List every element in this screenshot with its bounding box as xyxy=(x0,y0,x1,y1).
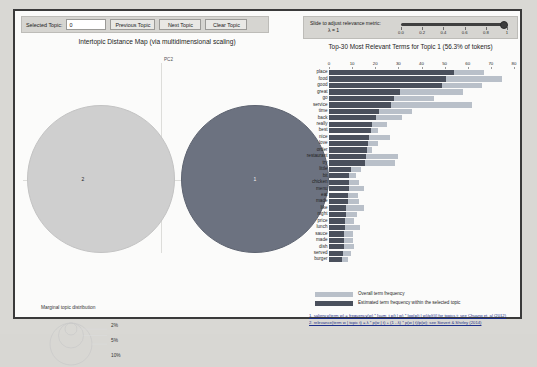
bar-topic-frequency xyxy=(329,147,367,152)
slider-tick-label: 1 xyxy=(506,30,508,35)
term-label[interactable]: place xyxy=(317,69,328,74)
term-label[interactable]: little xyxy=(319,166,327,171)
bar-row[interactable]: best xyxy=(329,128,514,133)
bar-row[interactable]: back xyxy=(329,115,514,120)
bar-topic-frequency xyxy=(329,205,346,210)
marginal-legend-circles xyxy=(35,310,155,366)
intertopic-distance-map[interactable]: PC2 PC1 2 1 Marginal topic distribution … xyxy=(21,47,293,282)
bar-row[interactable]: time xyxy=(329,109,514,114)
bar-topic-frequency xyxy=(329,70,454,75)
previous-topic-button[interactable]: Previous Topic xyxy=(110,19,155,30)
term-label[interactable]: dish xyxy=(319,244,327,249)
term-label[interactable]: good xyxy=(317,82,327,87)
bar-row[interactable]: burger xyxy=(329,257,514,262)
term-label[interactable]: love xyxy=(319,140,327,145)
bar-row[interactable]: restaurant xyxy=(329,154,514,159)
bar-row[interactable]: try xyxy=(329,160,514,165)
bar-row[interactable]: go xyxy=(329,96,514,101)
term-label[interactable]: best xyxy=(319,127,328,132)
footnote-relevance[interactable]: 2. relevance(term w | topic t) = λ * p(w… xyxy=(309,319,521,326)
bar-row[interactable]: dish xyxy=(329,244,514,249)
bar-row[interactable]: really xyxy=(329,122,514,127)
term-label[interactable]: eat xyxy=(321,192,327,197)
selected-topic-input[interactable] xyxy=(66,19,106,30)
pc2-axis-label: PC2 xyxy=(164,57,173,62)
bar-topic-frequency xyxy=(329,109,379,114)
legend-row-overall: Overall term frequency xyxy=(315,291,515,299)
relevance-slider-bar: Slide to adjust relevance metric: λ = 1 … xyxy=(303,16,518,39)
next-topic-button[interactable]: Next Topic xyxy=(159,19,201,30)
term-label[interactable]: bit xyxy=(323,173,328,178)
term-label[interactable]: price xyxy=(318,218,328,223)
clear-topic-button[interactable]: Clear Topic xyxy=(205,19,247,30)
relevance-slider[interactable]: 0.00.20.40.60.81 xyxy=(401,21,511,37)
x-axis-tick xyxy=(352,67,353,69)
bar-topic-frequency xyxy=(329,115,376,120)
bar-row[interactable]: service xyxy=(329,102,514,107)
slider-tick-label: 0.8 xyxy=(483,30,489,35)
x-axis-tick xyxy=(468,67,469,69)
x-axis-tick xyxy=(398,67,399,69)
term-label[interactable]: back xyxy=(318,115,328,120)
term-label[interactable]: made xyxy=(316,237,328,242)
bar-row[interactable]: little xyxy=(329,167,514,172)
slider-track[interactable] xyxy=(401,23,507,26)
term-label[interactable]: menu xyxy=(316,186,328,191)
bar-row[interactable]: good xyxy=(329,83,514,88)
bar-row[interactable]: order xyxy=(329,147,514,152)
term-label[interactable]: try xyxy=(322,160,327,165)
bar-row[interactable]: sauce xyxy=(329,231,514,236)
bar-row[interactable]: price xyxy=(329,218,514,223)
term-label[interactable]: order xyxy=(317,147,328,152)
marginal-legend-size-10: 10% xyxy=(111,353,121,358)
bar-row[interactable]: bit xyxy=(329,173,514,178)
bar-topic-frequency xyxy=(329,89,400,94)
bar-row[interactable]: love xyxy=(329,141,514,146)
term-label[interactable]: food xyxy=(319,76,328,81)
term-label[interactable]: great xyxy=(317,89,327,94)
x-axis-tick xyxy=(422,67,423,69)
bar-row[interactable]: chicken xyxy=(329,180,514,185)
bar-row[interactable]: made xyxy=(329,199,514,204)
top-terms-title: Top-30 Most Relevant Terms for Topic 1 (… xyxy=(303,43,518,50)
bar-topic-frequency xyxy=(329,76,446,81)
bar-row[interactable]: night xyxy=(329,212,514,217)
x-axis-tick-label: 80 xyxy=(512,61,517,66)
bar-topic-frequency xyxy=(329,231,344,236)
term-label[interactable]: served xyxy=(314,250,328,255)
bar-row[interactable]: made xyxy=(329,238,514,243)
term-label[interactable]: go xyxy=(322,95,327,100)
term-label[interactable]: made xyxy=(316,198,328,203)
bar-row[interactable]: great xyxy=(329,89,514,94)
term-label[interactable]: burger xyxy=(314,256,327,261)
term-label[interactable]: night xyxy=(318,211,328,216)
slider-tick-label: 0.4 xyxy=(440,30,446,35)
bar-row[interactable]: nice xyxy=(329,135,514,140)
term-label[interactable]: chicken xyxy=(312,179,328,184)
term-label[interactable]: lunch xyxy=(317,224,328,229)
term-label[interactable]: like xyxy=(321,205,328,210)
legend-label-topic: Estimated term frequency within the sele… xyxy=(358,300,460,305)
bar-row[interactable]: like xyxy=(329,205,514,210)
bar-row[interactable]: menu xyxy=(329,186,514,191)
bar-row[interactable]: lunch xyxy=(329,225,514,230)
bar-row[interactable]: eat xyxy=(329,193,514,198)
term-label[interactable]: restaurant xyxy=(307,153,328,158)
topic-controls-bar: Selected Topic: Previous Topic Next Topi… xyxy=(21,16,269,33)
slider-tick-label: 0.6 xyxy=(462,30,468,35)
bar-topic-frequency xyxy=(329,154,366,159)
footnote-saliency[interactable]: 1. saliency(term w) = frequency(w) * [su… xyxy=(309,312,521,319)
bar-row[interactable]: food xyxy=(329,76,514,81)
top-terms-bar-chart: 01020304050607080 placefoodgoodgreatgose… xyxy=(303,54,518,286)
bar-topic-frequency xyxy=(329,173,349,178)
term-label[interactable]: time xyxy=(319,108,328,113)
term-label[interactable]: nice xyxy=(319,134,327,139)
bar-chart-legend: Overall term frequency Estimated term fr… xyxy=(315,291,515,309)
bar-topic-frequency xyxy=(329,128,371,133)
term-label[interactable]: sauce xyxy=(315,231,327,236)
bar-row[interactable]: place xyxy=(329,70,514,75)
term-label[interactable]: service xyxy=(313,102,328,107)
bar-row[interactable]: served xyxy=(329,251,514,256)
term-label[interactable]: really xyxy=(317,121,328,126)
topic-bubble-2[interactable] xyxy=(27,105,175,253)
